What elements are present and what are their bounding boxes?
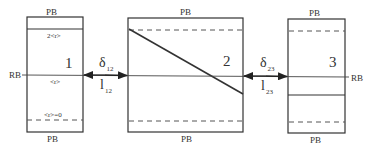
gap-23-arrows	[244, 76, 287, 77]
box-3-number: 3	[329, 55, 337, 70]
box-2-top-pb-label: PB	[180, 8, 191, 17]
box-2-number: 2	[223, 54, 231, 69]
box-2-bottom-pb-label: PB	[181, 135, 192, 144]
box-1-upper-annotation: 2<r>	[47, 33, 61, 40]
gap-12-arrows	[84, 75, 127, 76]
box-1-top-pb-label: PB	[46, 8, 57, 17]
l-12-label: l12	[100, 78, 112, 92]
box-2	[128, 18, 243, 132]
box-3	[288, 19, 345, 133]
rb-label-left: RB	[9, 71, 21, 80]
rb-line	[22, 75, 349, 77]
box-1-number: 1	[65, 56, 73, 71]
box-1-bottom-pb-label: PB	[47, 135, 58, 144]
delta-12-label: δ12	[99, 56, 114, 70]
delta-23-label: δ23	[260, 56, 275, 70]
l-23-label: l23	[261, 79, 273, 93]
box-1-lower-annotation: <r>=0	[44, 112, 62, 119]
box-3-top-pb-label: PB	[309, 9, 320, 18]
diagram-canvas	[0, 0, 372, 154]
rb-label-right: RB	[351, 74, 363, 83]
box-3-bottom-pb-label: PB	[310, 136, 321, 145]
box-1-middle-annotation: <r>	[50, 79, 60, 86]
